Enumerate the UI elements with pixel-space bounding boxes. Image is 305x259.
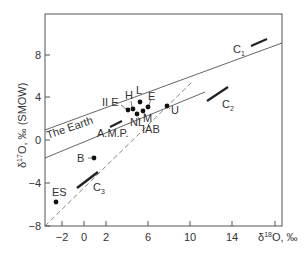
x-tick-label: −2: [56, 231, 69, 243]
point-l: [138, 100, 143, 105]
u-label: U: [171, 104, 179, 116]
y-axis-label: δ17O, ‰ (SMOW): [16, 83, 28, 168]
point-h: [131, 107, 136, 112]
iie-label: II E: [102, 96, 119, 108]
annotations: The Earth A.M.P. IAB B ES II E H L NL M …: [45, 43, 245, 198]
point-b: [92, 156, 97, 161]
c1-segment: [251, 39, 267, 46]
x-tick-label: 2: [103, 231, 109, 243]
iab-label: IAB: [142, 123, 160, 135]
amp-label: A.M.P.: [97, 127, 129, 139]
e-label: E: [148, 90, 155, 102]
c2-label: C2: [222, 98, 234, 112]
earth-line-label: The Earth: [45, 114, 95, 141]
x-tick-label: 10: [184, 231, 196, 243]
es-label: ES: [52, 186, 67, 198]
b-label: B: [77, 152, 84, 164]
y-tick-label: 4: [35, 91, 41, 103]
y-tick-label: −8: [28, 220, 41, 232]
nl-label: NL: [130, 116, 144, 128]
c1-label: C1: [233, 43, 245, 57]
x-tick-label: 14: [226, 231, 238, 243]
y-tick-label: −4: [28, 177, 41, 189]
y-tick-label: 8: [35, 49, 41, 61]
x-tick-label: 0: [81, 231, 87, 243]
x-tick-label: 6: [145, 231, 151, 243]
m-label: M: [143, 112, 152, 124]
point-e: [146, 105, 151, 110]
oxygen-isotope-chart: −2 0 2 6 10 14 δ18O, ‰ 8 4 0 −4 −8 δ17O,…: [0, 0, 305, 259]
h-label: H: [125, 89, 133, 101]
point-es: [54, 200, 59, 205]
l-label: L: [136, 84, 142, 96]
x-axis-ticks: [62, 221, 275, 226]
y-axis-tick-labels: 8 4 0 −4 −8: [28, 49, 41, 232]
c3-label: C3: [93, 181, 105, 195]
x-axis-label: δ18O, ‰: [258, 231, 298, 243]
y-tick-label: 0: [35, 134, 41, 146]
point-iie: [126, 108, 131, 113]
x-axis-tick-labels: −2 0 2 6 10 14: [56, 231, 238, 243]
